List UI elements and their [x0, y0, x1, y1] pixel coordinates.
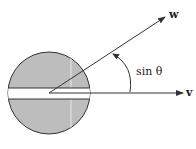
angle-arc	[113, 54, 131, 92]
vector-v-label: v	[185, 86, 193, 99]
vector-diagram: w v sin θ	[0, 0, 196, 149]
diagram-canvas: w v sin θ	[0, 0, 196, 149]
vector-w	[49, 17, 165, 93]
vector-w-label: w	[168, 8, 179, 21]
angle-label: sin θ	[136, 65, 163, 78]
